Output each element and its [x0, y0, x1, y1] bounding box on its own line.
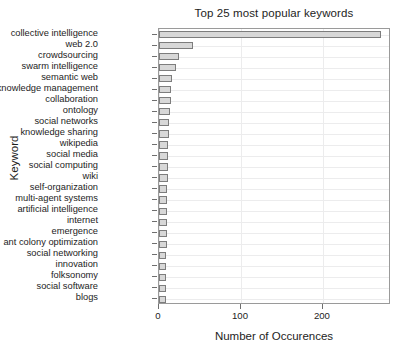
y-axis-tick-label: wikipedia [60, 139, 98, 148]
y-axis-tick-mark [152, 210, 157, 211]
gridline-horizontal [159, 299, 389, 300]
y-axis-tick-mark [152, 166, 157, 167]
y-axis-tick-label: crowdsourcing [38, 51, 98, 60]
bar [159, 141, 168, 148]
x-axis-tick-mark [322, 304, 323, 309]
y-axis-tick-label: ant colony optimization [3, 238, 98, 247]
x-axis-label: Number of Occurences [158, 330, 390, 342]
y-axis-tick-label: wiki [83, 172, 99, 181]
y-axis-tick-mark [152, 133, 157, 134]
y-axis-tick-mark [152, 144, 157, 145]
chart-figure: Top 25 most popular keywords Keyword col… [0, 0, 396, 357]
bar [159, 252, 166, 259]
y-axis-tick-label: blogs [76, 293, 98, 302]
gridline-horizontal [159, 233, 389, 234]
y-axis-tick-label: web 2.0 [65, 40, 98, 49]
y-axis-tick-label: social software [37, 282, 99, 291]
bar [159, 86, 171, 93]
gridline-horizontal [159, 123, 389, 124]
y-axis-tick-mark [152, 56, 157, 57]
gridline-horizontal [159, 101, 389, 102]
x-axis-tick-label: 100 [232, 310, 248, 321]
y-axis-tick-mark [152, 155, 157, 156]
y-axis-tick-mark [152, 232, 157, 233]
y-axis-tick-label: ontology [63, 106, 98, 115]
gridline-horizontal [159, 189, 389, 190]
y-axis-tick-label: innovation [56, 260, 98, 269]
gridline-horizontal [159, 200, 389, 201]
gridline-horizontal [159, 266, 389, 267]
bar [159, 64, 176, 71]
y-axis-tick-mark [152, 221, 157, 222]
gridline-horizontal [159, 288, 389, 289]
y-axis-tick-mark [152, 111, 157, 112]
y-axis-tick-mark [152, 287, 157, 288]
gridline-horizontal [159, 145, 389, 146]
y-axis-tick-mark [152, 265, 157, 266]
x-axis-ticks: 0100200 [158, 304, 390, 326]
x-axis-tick-mark [240, 304, 241, 309]
bar [159, 119, 169, 126]
y-axis-tick-label: multi-agent systems [15, 194, 98, 203]
x-axis-tick-label: 0 [155, 310, 160, 321]
gridline-horizontal [159, 178, 389, 179]
y-axis-tick-mark [152, 276, 157, 277]
bar [159, 196, 167, 203]
gridline-horizontal [159, 277, 389, 278]
bar [159, 230, 167, 237]
gridline-horizontal [159, 134, 389, 135]
bar [159, 219, 167, 226]
y-axis-tick-mark [152, 78, 157, 79]
y-axis-tick-label: emergence [51, 227, 98, 236]
y-axis-tick-label: swarm intelligence [22, 62, 98, 71]
gridline-horizontal [159, 211, 389, 212]
y-axis-tick-mark [152, 67, 157, 68]
bar [159, 130, 169, 137]
y-axis-tick-label: artificial intelligence [17, 205, 98, 214]
bar [159, 152, 168, 159]
y-axis-tick-label: semantic web [41, 73, 98, 82]
y-axis-tick-mark [152, 177, 157, 178]
bar [159, 274, 166, 281]
y-axis-tick-labels: collective intelligenceweb 2.0crowdsourc… [0, 28, 150, 304]
y-axis-tick-label: collaboration [45, 95, 98, 104]
y-axis-tick-mark [152, 45, 157, 46]
gridline-horizontal [159, 112, 389, 113]
y-axis-tick-label: knowledge sharing [20, 128, 98, 137]
gridline-horizontal [159, 46, 389, 47]
y-axis-tick-mark [152, 89, 157, 90]
y-axis-tick-label: folksonomy [51, 271, 98, 280]
bar [159, 241, 167, 248]
y-axis-tick-mark [152, 298, 157, 299]
gridline-horizontal [159, 156, 389, 157]
gridline-horizontal [159, 68, 389, 69]
bar [159, 42, 193, 49]
gridline-vertical [323, 29, 324, 303]
plot-inner [159, 29, 389, 303]
gridline-horizontal [159, 79, 389, 80]
x-axis-tick-label: 200 [314, 310, 330, 321]
y-axis-tick-mark [152, 122, 157, 123]
y-axis-tick-mark [152, 199, 157, 200]
bar [159, 296, 166, 303]
bar [159, 208, 167, 215]
bar [159, 53, 179, 60]
bar [159, 285, 166, 292]
y-axis-tick-mark [152, 100, 157, 101]
bar [159, 97, 171, 104]
y-axis-tick-mark [152, 34, 157, 35]
bar [159, 108, 170, 115]
gridline-horizontal [159, 222, 389, 223]
bar [159, 75, 172, 82]
gridline-horizontal [159, 57, 389, 58]
y-axis-tick-label: social networks [34, 117, 98, 126]
gridline-horizontal [159, 255, 389, 256]
y-axis-tick-mark [152, 254, 157, 255]
plot-area [158, 28, 390, 304]
bar [159, 185, 167, 192]
y-axis-tick-label: social media [46, 150, 98, 159]
y-axis-tick-label: internet [67, 216, 98, 225]
y-axis-tick-label: self-organization [30, 183, 98, 192]
bar [159, 263, 166, 270]
y-axis-tick-mark [152, 243, 157, 244]
